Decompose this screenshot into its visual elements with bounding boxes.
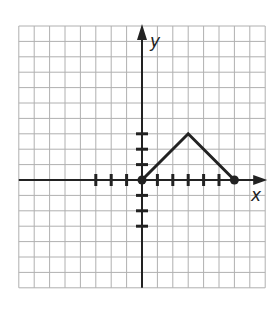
y-axis-label: y [149, 31, 161, 51]
axes [19, 24, 267, 288]
x-axis-label: x [250, 185, 262, 205]
coordinate-plane: x y [0, 0, 274, 309]
